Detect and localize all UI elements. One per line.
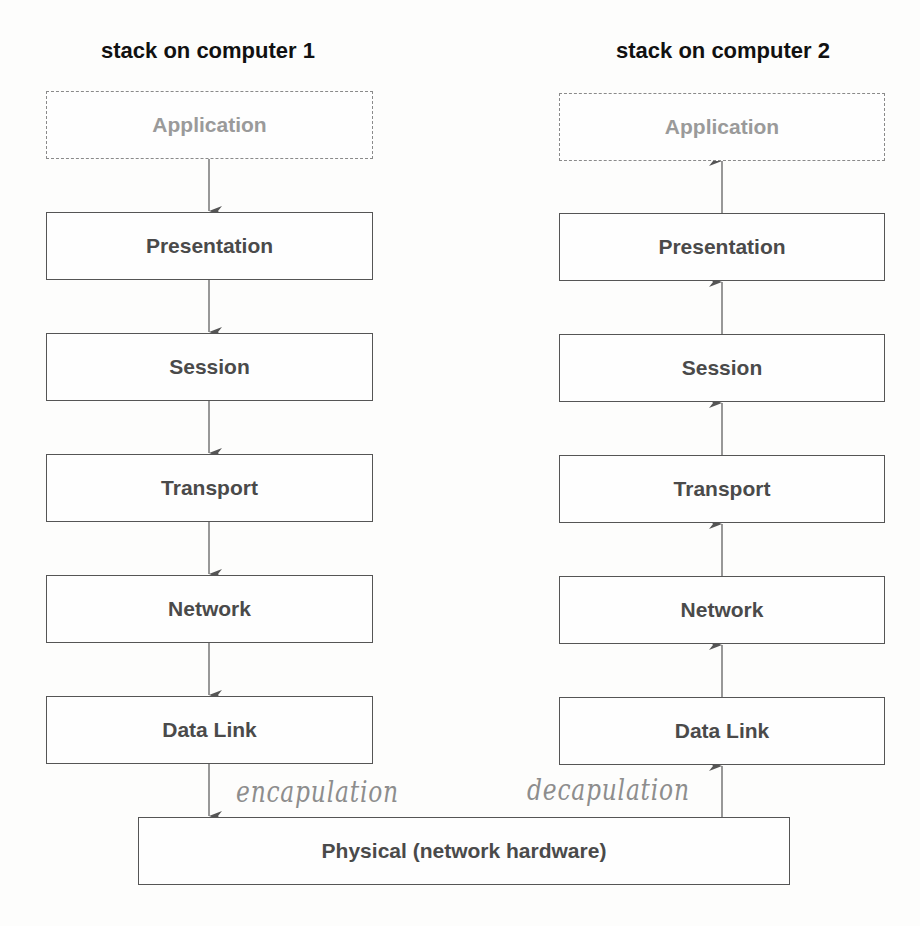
stack-1-layer-presentation: Presentation: [46, 212, 373, 280]
stack-2-layer-transport: Transport: [559, 455, 885, 523]
decapsulation-annotation: decapulation: [527, 772, 690, 807]
encapsulation-annotation: encapulation: [236, 774, 399, 809]
stack-2-layer-application: Application: [559, 93, 885, 161]
stack-1-layer-data-link: Data Link: [46, 696, 373, 764]
physical-layer: Physical (network hardware): [138, 817, 790, 885]
stack-1-layer-session: Session: [46, 333, 373, 401]
stack-2-layer-data-link: Data Link: [559, 697, 885, 765]
stack-1-layer-application: Application: [46, 91, 373, 159]
stack-1-layer-transport: Transport: [46, 454, 373, 522]
stack-1-layer-network: Network: [46, 575, 373, 643]
stack-2-layer-presentation: Presentation: [559, 213, 885, 281]
stack-2-layer-network: Network: [559, 576, 885, 644]
stack-2-layer-session: Session: [559, 334, 885, 402]
